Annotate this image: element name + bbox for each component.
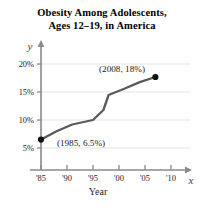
line-chart-plot: 20% 15% 10% 5% '85 '90 '95 '00 '05 '10 y…: [0, 0, 204, 209]
data-line-obesity-rate: [41, 77, 155, 140]
y-axis: [37, 40, 44, 170]
data-point-marker-1985: [38, 137, 44, 143]
y-tick-label-20: 20%: [19, 60, 34, 69]
x-tick-label-2005: '05: [140, 174, 150, 183]
x-axis-title: Year: [0, 186, 196, 197]
x-tick-label-1990: '90: [62, 174, 72, 183]
x-tick-label-2000: '00: [114, 174, 124, 183]
x-axis-variable-label: x: [188, 174, 194, 186]
annotation-1985: (1985, 6.5%): [57, 138, 105, 148]
x-axis: [30, 165, 192, 173]
y-axis-variable-label: y: [27, 40, 33, 52]
gridlines: [41, 64, 190, 148]
chart-figure: Obesity Among Adolescents, Ages 12–19, i…: [0, 0, 204, 209]
x-axis-arrow-icon: [185, 167, 192, 174]
x-tick-label-1995: '95: [88, 174, 98, 183]
y-tick-label-15: 15%: [19, 88, 34, 97]
x-tick-label-1985: '85: [36, 174, 46, 183]
annotation-2008: (2008, 18%): [99, 64, 145, 74]
data-point-marker-2008: [152, 74, 158, 80]
y-tick-label-5: 5%: [23, 144, 34, 153]
y-tick-label-10: 10%: [19, 116, 34, 125]
y-axis-arrow-icon: [38, 40, 45, 47]
x-tick-label-2010: '10: [166, 174, 176, 183]
